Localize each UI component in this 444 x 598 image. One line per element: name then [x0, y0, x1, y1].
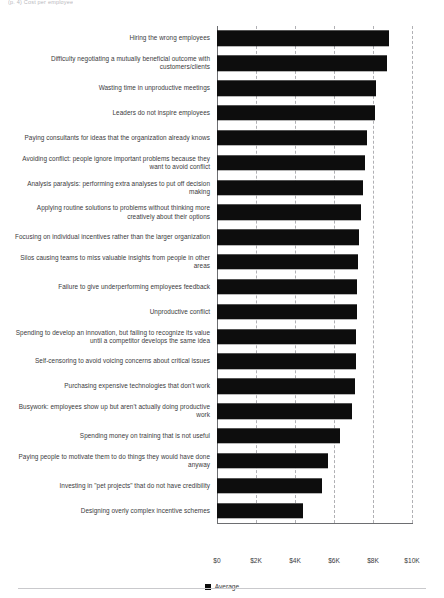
- bar-row: Paying people to motivate them to do thi…: [0, 448, 444, 473]
- bar-row: Analysis paralysis: performing extra ana…: [0, 175, 444, 200]
- x-tick-label: $8K: [367, 557, 379, 564]
- bar: [217, 31, 389, 46]
- category-label: Paying people to motivate them to do thi…: [8, 453, 210, 469]
- bar: [217, 254, 358, 269]
- category-label: Failure to give underperforming employee…: [8, 283, 210, 291]
- bar: [217, 403, 352, 418]
- chart-page: (p. 4) Cost per employee Hiring the wron…: [0, 0, 444, 598]
- category-label: Busywork: employees show up but aren't a…: [8, 403, 210, 419]
- bar-row: Hiring the wrong employees: [0, 26, 444, 51]
- header-caption: (p. 4) Cost per employee: [8, 0, 73, 6]
- category-label: Hiring the wrong employees: [8, 34, 210, 42]
- bar: [217, 205, 361, 220]
- bar-row: Purchasing expensive technologies that d…: [0, 374, 444, 399]
- bar: [217, 354, 356, 369]
- category-label: Purchasing expensive technologies that d…: [8, 382, 210, 390]
- bar-row: Self-censoring to avoid voicing concerns…: [0, 349, 444, 374]
- bar-row: Failure to give underperforming employee…: [0, 275, 444, 300]
- bar-row: Avoiding conflict: people ignore importa…: [0, 150, 444, 175]
- bar: [217, 329, 356, 344]
- category-label: Leaders do not inspire employees: [8, 109, 210, 117]
- bar-rows: Hiring the wrong employeesDifficulty neg…: [0, 26, 444, 523]
- x-tick-label: $6K: [328, 557, 340, 564]
- bar-row: Busywork: employees show up but aren't a…: [0, 399, 444, 424]
- bar-row: Focusing on individual incentives rather…: [0, 225, 444, 250]
- bar: [217, 279, 357, 294]
- x-tick-label: $4K: [289, 557, 301, 564]
- bar-row: Unproductive conflict: [0, 299, 444, 324]
- bar: [217, 503, 303, 518]
- category-label: Self-censoring to avoid voicing concerns…: [8, 357, 210, 365]
- bar: [217, 80, 376, 95]
- category-label: Applying routine solutions to problems w…: [8, 204, 210, 220]
- category-label: Designing overly complex incentive schem…: [8, 506, 210, 514]
- footer-divider: [18, 588, 426, 589]
- category-label: Difficulty negotiating a mutually benefi…: [8, 55, 210, 71]
- x-tick-label: $10K: [404, 557, 419, 564]
- category-label: Avoiding conflict: people ignore importa…: [8, 154, 210, 170]
- category-label: Spending money on training that is not u…: [8, 432, 210, 440]
- category-label: Paying consultants for ideas that the or…: [8, 134, 210, 142]
- category-label: Focusing on individual incentives rather…: [8, 233, 210, 241]
- bar: [217, 130, 367, 145]
- category-label: Silos causing teams to miss valuable ins…: [8, 254, 210, 270]
- bar-row: Leaders do not inspire employees: [0, 101, 444, 126]
- bar-row: Difficulty negotiating a mutually benefi…: [0, 51, 444, 76]
- bar: [217, 304, 357, 319]
- bar: [217, 180, 363, 195]
- bar: [217, 155, 365, 170]
- bar-row: Silos causing teams to miss valuable ins…: [0, 250, 444, 275]
- category-label: Wasting time in unproductive meetings: [8, 84, 210, 92]
- x-tick-label: $2K: [250, 557, 262, 564]
- category-label: Unproductive conflict: [8, 308, 210, 316]
- bar-row: Spending to develop an innovation, but f…: [0, 324, 444, 349]
- bar: [217, 428, 340, 443]
- bar-row: Applying routine solutions to problems w…: [0, 200, 444, 225]
- x-tick-label: $0: [213, 557, 220, 564]
- bar: [217, 56, 387, 71]
- bar: [217, 453, 328, 468]
- bar-row: Designing overly complex incentive schem…: [0, 498, 444, 523]
- category-label: Spending to develop an innovation, but f…: [8, 328, 210, 344]
- bar-row: Investing in "pet projects" that do not …: [0, 473, 444, 498]
- bar-row: Paying consultants for ideas that the or…: [0, 125, 444, 150]
- bar-chart: Hiring the wrong employeesDifficulty neg…: [0, 26, 444, 531]
- bar: [217, 230, 359, 245]
- bar: [217, 105, 375, 120]
- bar-row: Wasting time in unproductive meetings: [0, 76, 444, 101]
- bar: [217, 478, 322, 493]
- category-label: Investing in "pet projects" that do not …: [8, 482, 210, 490]
- x-axis-line: [217, 523, 413, 524]
- x-axis-tick-labels: $0$2K$4K$6K$8K$10K: [0, 557, 444, 569]
- bar: [217, 379, 355, 394]
- bar-row: Spending money on training that is not u…: [0, 424, 444, 449]
- category-label: Analysis paralysis: performing extra ana…: [8, 179, 210, 195]
